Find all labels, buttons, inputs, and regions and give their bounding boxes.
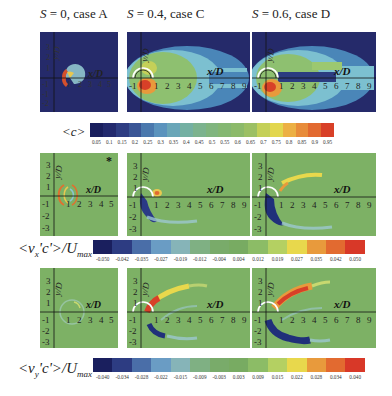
colorbar-tick: 0.85 [296, 139, 309, 145]
svg-text:-3: -3 [42, 337, 50, 347]
colorbar-tick: 0.027 [287, 256, 306, 262]
svg-text:4: 4 [187, 81, 192, 91]
svg-text:2: 2 [46, 171, 51, 181]
colorbar-swatch [193, 123, 206, 137]
svg-text:9: 9 [367, 81, 372, 91]
svg-text:5: 5 [323, 200, 328, 210]
svg-text:6: 6 [334, 200, 339, 210]
colorbar-swatch [141, 123, 154, 137]
svg-text:-1: -1 [254, 200, 262, 210]
colorbar-swatch [326, 358, 345, 372]
colorbar-swatch [248, 358, 267, 372]
svg-text:9: 9 [242, 315, 247, 325]
colorbar-tick: 0.019 [268, 256, 287, 262]
svg-text:-2: -2 [254, 212, 262, 222]
colorbar-swatch [307, 358, 326, 372]
svg-text:x/D: x/D [85, 184, 101, 195]
colorbar-tick: 0.65 [244, 139, 257, 145]
svg-text:5: 5 [107, 80, 111, 89]
svg-text:-3: -3 [129, 224, 137, 234]
svg-text:3: 3 [88, 315, 93, 325]
colorbar-tick: -0.015 [171, 374, 190, 380]
svg-text:x/D: x/D [333, 65, 351, 77]
svg-text:4: 4 [312, 81, 317, 91]
colorbar-swatch [151, 358, 170, 372]
svg-text:-2: -2 [129, 326, 137, 336]
svg-text:3: 3 [46, 43, 50, 52]
colorbar-tick: 0.35 [167, 139, 180, 145]
svg-text:-3: -3 [129, 337, 137, 347]
svg-text:7: 7 [345, 315, 350, 325]
svg-text:1: 1 [258, 298, 263, 308]
colorbar-swatch [345, 240, 364, 254]
colorbar-swatch [171, 240, 190, 254]
colorbar-swatch [167, 123, 180, 137]
colorbar-tick: -0.040 [93, 374, 112, 380]
colorbar-ticks-c: 0.050.10.150.20.250.30.350.40.450.50.550… [90, 139, 334, 145]
svg-text:2: 2 [290, 81, 295, 91]
svg-text:4: 4 [98, 80, 102, 89]
svg-text:5: 5 [109, 315, 114, 325]
svg-text:x/D: x/D [87, 68, 103, 79]
svg-text:2: 2 [133, 287, 138, 297]
panel-c-case-c: -1123456789 x/D y/D [127, 32, 250, 112]
colorbar-tick: 0.1 [103, 139, 116, 145]
colorbar-tick: 0.95 [321, 139, 334, 145]
colorbar-swatch [257, 123, 270, 137]
svg-text:5: 5 [323, 315, 328, 325]
colorbar-swatch [270, 123, 283, 137]
colorbar-swatch [210, 240, 229, 254]
svg-text:2: 2 [46, 287, 51, 297]
colorbar-tick: 0.035 [307, 256, 326, 262]
svg-text:2: 2 [258, 172, 263, 182]
panel-vxc-case-a: -112345 321 -2-3 x/D y/D * [40, 153, 118, 236]
svg-text:3: 3 [301, 315, 306, 325]
colorbar-tick: -0.019 [171, 256, 190, 262]
colorbar-tick: 0.7 [257, 139, 270, 145]
svg-text:3: 3 [133, 161, 138, 171]
colorbar-swatch [116, 123, 129, 137]
colorbar-swatch [190, 240, 209, 254]
colorbar-tick: 0.034 [326, 374, 345, 380]
colorbar-tick: 0.4 [180, 139, 193, 145]
panel-vyc-case-c: -1123456789 321 -2-3 x/D y/D [127, 268, 250, 348]
svg-text:-1: -1 [129, 200, 137, 210]
svg-text:1: 1 [154, 200, 159, 210]
colorbar-tick: 0.75 [270, 139, 283, 145]
colorbar-swatch [287, 240, 306, 254]
colorbar-swatch [90, 123, 103, 137]
svg-text:4: 4 [99, 199, 104, 209]
colorbar-swatch [248, 240, 267, 254]
svg-text:5: 5 [198, 81, 203, 91]
svg-text:-1: -1 [42, 80, 49, 89]
colorbar-swatch [132, 240, 151, 254]
svg-text:-2: -2 [42, 99, 49, 108]
svg-text:1: 1 [154, 315, 159, 325]
svg-text:2: 2 [77, 315, 82, 325]
svg-text:3: 3 [46, 276, 51, 286]
colorbar-label-vyc: <vy'c'>/Umax [18, 360, 92, 379]
svg-text:-1: -1 [42, 199, 50, 209]
svg-text:-1: -1 [129, 81, 137, 91]
svg-text:2: 2 [258, 287, 263, 297]
svg-text:8: 8 [231, 200, 236, 210]
svg-text:-2: -2 [42, 326, 50, 336]
colorbar-tick: 0.028 [307, 374, 326, 380]
colorbar-swatch [154, 123, 167, 137]
svg-text:6: 6 [209, 81, 214, 91]
svg-text:7: 7 [220, 200, 225, 210]
colorbar-tick: -0.009 [190, 374, 209, 380]
colorbar-vxc [93, 240, 365, 254]
colorbar-swatch [180, 123, 193, 137]
svg-text:2: 2 [133, 172, 138, 182]
colorbar-tick: 0.15 [116, 139, 129, 145]
svg-text:2: 2 [165, 200, 170, 210]
colorbar-tick: 0.009 [248, 374, 267, 380]
colorbar-swatch [229, 240, 248, 254]
svg-text:5: 5 [323, 81, 328, 91]
colorbar-tick: -0.035 [132, 256, 151, 262]
colorbar-swatch [244, 123, 257, 137]
colorbar-swatch [308, 123, 321, 137]
svg-text:1: 1 [279, 200, 284, 210]
svg-text:4: 4 [187, 315, 192, 325]
